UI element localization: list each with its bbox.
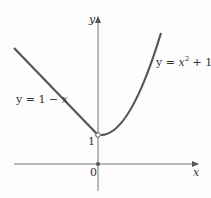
- chart: y x 1 0 y = 1 − x y = x2 + 1: [0, 0, 211, 198]
- y-axis-label: y: [89, 14, 95, 25]
- x-axis-label: x: [193, 167, 199, 178]
- tick-label-one: 1: [88, 136, 95, 147]
- parabola-x2-plus-1: [101, 33, 161, 135]
- right-equation: y = x2 + 1: [156, 56, 211, 68]
- line-1-minus-x: [14, 48, 97, 134]
- origin-label: 0: [90, 167, 97, 178]
- open-circle-point: [96, 133, 101, 138]
- left-equation: y = 1 − x: [16, 94, 68, 105]
